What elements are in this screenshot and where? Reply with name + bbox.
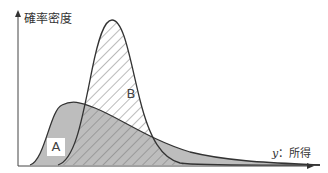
x-axis-text: ：所得: [278, 147, 311, 160]
region-label-b: B: [122, 85, 140, 103]
x-axis-label: y：所得: [272, 144, 311, 160]
y-axis-arrow-icon: [15, 10, 21, 17]
y-axis-label: 確率密度: [24, 9, 72, 26]
region-label-a: A: [47, 138, 65, 156]
